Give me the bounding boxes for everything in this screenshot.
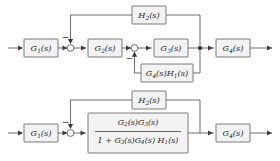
upper-sum2-minus-sign: −: [126, 53, 134, 63]
upper-block-g1-label: G1(s): [31, 43, 52, 54]
upper-block-g3-label: G3(s): [161, 43, 182, 54]
lower-summing-junction-1: [67, 130, 74, 137]
block-diagram-figure: G1(s) − G2(s) −: [0, 0, 280, 161]
upper-output-arrow: [267, 45, 272, 50]
upper-sum1-minus-sign: −: [62, 32, 70, 42]
lower-block-h2-label: H2(s): [137, 95, 159, 106]
lower-output-arrow: [267, 130, 272, 135]
upper-summing-junction-1: [67, 45, 74, 52]
upper-diagram: G1(s) − G2(s) −: [8, 6, 272, 82]
lower-sum1-minus-sign: −: [62, 117, 70, 127]
lower-block-g4-label: G4(s): [223, 128, 244, 139]
upper-arrow-into-g2: [81, 45, 86, 50]
lower-arrow-into-combined: [81, 130, 86, 135]
upper-block-h2-label: H2(s): [137, 10, 159, 21]
upper-arrow-into-sum2: [126, 45, 131, 50]
upper-block-g2-label: G2(s): [95, 43, 116, 54]
lower-combined-numerator: G2(s)G3(s): [118, 118, 159, 128]
lower-block-g1-label: G1(s): [31, 128, 52, 139]
upper-summing-junction-2: [131, 45, 138, 52]
upper-block-g4h1-label: G4(s)H1(s): [146, 68, 188, 79]
upper-block-g4-label: G4(s): [223, 43, 244, 54]
upper-input-arrow: [18, 45, 23, 50]
lower-diagram: G1(s) − G2(s)G3(s) 1 + G3(s)G4(s) H1(s): [8, 91, 272, 153]
lower-arrow-into-g4: [208, 130, 213, 135]
diagram-canvas: G1(s) − G2(s) −: [0, 0, 280, 161]
upper-arrow-into-g3: [146, 45, 151, 50]
lower-input-arrow: [18, 130, 23, 135]
upper-arrow-into-g4: [208, 45, 213, 50]
